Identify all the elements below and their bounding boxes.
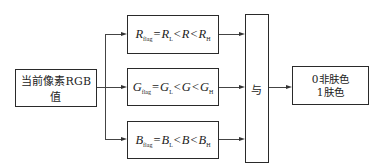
arrow-line-to-g — [105, 87, 122, 88]
condition-b-formula: Bflag=BL<B<BH — [135, 133, 210, 148]
output-box-skin-result: 0非肤色 1肤色 — [292, 66, 369, 105]
input-box-current-pixel-rgb: 当前像素RGB值 — [15, 69, 97, 107]
arrow-line-to-r — [105, 34, 122, 35]
condition-box-b: Bflag=BL<B<BH — [127, 121, 219, 159]
arrow-line-to-b — [105, 139, 122, 140]
condition-box-r: Rflag=RL<R<RH — [127, 15, 219, 54]
and-gate-box: 与 — [245, 14, 269, 163]
condition-box-g: Gflag=GL<G<GH — [127, 68, 219, 106]
arrow-line-and-to-output — [269, 87, 287, 88]
and-gate-label: 与 — [251, 81, 262, 97]
condition-r-formula: Rflag=RL<R<RH — [135, 27, 210, 42]
arrow-line-b-to-and — [219, 139, 240, 140]
arrow-line-g-to-and — [219, 87, 240, 88]
input-box-label: 当前像素RGB值 — [16, 72, 96, 104]
output-line-skin: 1肤色 — [317, 86, 344, 99]
output-line-non-skin: 0非肤色 — [312, 73, 349, 86]
condition-g-formula: Gflag=GL<G<GH — [133, 80, 214, 95]
arrow-line-r-to-and — [219, 34, 240, 35]
